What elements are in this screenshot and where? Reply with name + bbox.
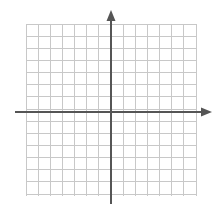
- coordinate-grid-figure: [0, 0, 222, 209]
- coordinate-plane-svg: [0, 0, 222, 209]
